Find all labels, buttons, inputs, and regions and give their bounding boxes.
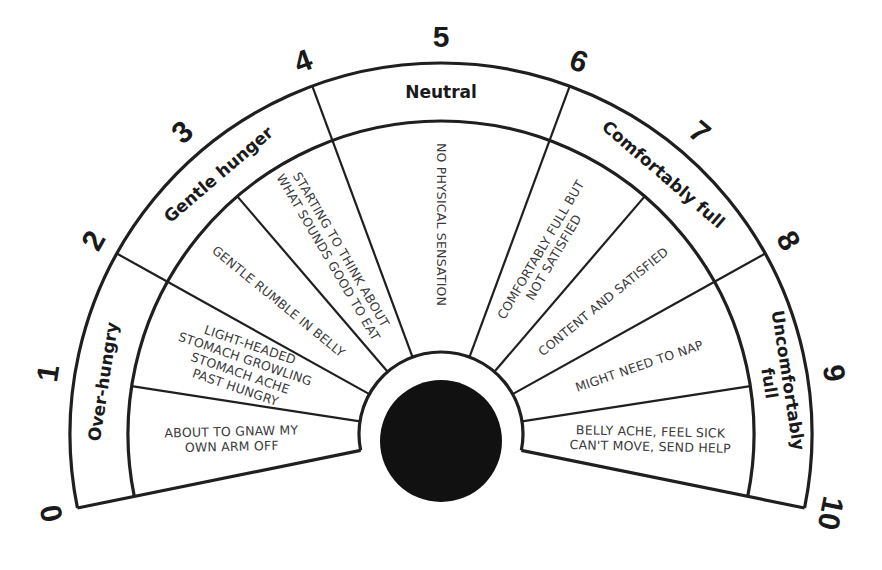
- zone-label: full: [757, 366, 782, 400]
- scale-number: 10: [812, 494, 851, 533]
- edge-right: [521, 450, 804, 508]
- zone-label: Neutral: [405, 82, 477, 102]
- zone-divider: [312, 86, 332, 140]
- scale-number: 0: [33, 502, 69, 525]
- zone-divider: [714, 254, 765, 282]
- scale-number: 8: [770, 225, 807, 256]
- zone-label: Over-hungry: [84, 321, 122, 443]
- scale-number: 2: [75, 225, 112, 256]
- scale-number: 1: [30, 362, 65, 384]
- sensation-description: STARTING TO THINK ABOUT: [290, 169, 393, 329]
- hub-disk: [380, 380, 502, 502]
- sensation-description: MIGHT NEED TO NAP: [573, 337, 705, 395]
- hunger-scale-diagram: Hunger and fullness scale 012345678910 O…: [0, 0, 882, 570]
- description-divider: [522, 386, 750, 421]
- scale-number: 6: [566, 42, 593, 79]
- sensation-description: NO PHYSICAL SENSATION: [434, 143, 449, 306]
- center-hub: [359, 352, 523, 502]
- sensation-description: CAN'T MOVE, SEND HELP: [569, 437, 731, 456]
- sensation-description: OWN ARM OFF: [185, 438, 279, 455]
- edge-left: [77, 450, 360, 508]
- zone-divider: [550, 86, 570, 140]
- scale-number: 5: [433, 20, 450, 53]
- scale-number: 7: [683, 114, 717, 150]
- scale-number: 9: [817, 362, 852, 384]
- zone-divider: [117, 254, 168, 282]
- scale-number: 4: [289, 42, 316, 79]
- scale-number: 3: [165, 114, 199, 150]
